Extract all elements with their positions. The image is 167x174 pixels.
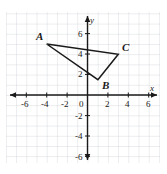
x-tick-label-2: 2 [105,100,110,109]
vertex-label-a: A [36,31,43,42]
coordinate-grid-svg [0,0,167,174]
x-tick-label--4: -4 [41,100,49,109]
y-tick-label--6: -6 [75,153,83,162]
y-tick-label-4: 4 [78,50,83,59]
y-tick-label-6: 6 [78,30,83,39]
y-tick-label--2: -2 [75,112,83,121]
vertex-label-c: C [122,42,129,53]
y-tick-label--4: -4 [75,132,83,141]
x-tick-label--2: -2 [61,100,69,109]
grid-lines [6,12,160,163]
x-tick-label-6: 6 [146,100,151,109]
y-axis-label: y [90,16,94,25]
x-tick-label-4: 4 [125,100,130,109]
vertex-label-b: B [102,80,109,91]
coordinate-plane-figure: -6 -4 -2 0 2 4 6 6 4 2 -2 -4 -6 x y A B … [0,0,167,174]
x-tick-label-0: 0 [79,100,84,109]
y-tick-label-2: 2 [78,70,83,79]
x-axis-label: x [150,84,154,93]
x-tick-label--6: -6 [21,100,29,109]
